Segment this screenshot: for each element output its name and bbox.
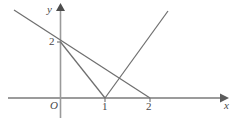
x-tick-label-1: 1	[102, 101, 108, 112]
figure-canvas	[0, 0, 238, 120]
origin-label: O	[50, 100, 58, 111]
y-axis-label: y	[47, 4, 52, 15]
v-left-branch-line	[61, 42, 106, 98]
coordinate-plane-figure: y x O 2 1 2	[0, 0, 238, 120]
y-axis-arrow-icon	[56, 3, 65, 11]
v-right-branch-line	[105, 11, 168, 98]
x-tick-label-2: 2	[146, 101, 152, 112]
y-tick-label-2: 2	[49, 36, 55, 47]
descending-line	[14, 10, 150, 98]
x-axis-label: x	[224, 100, 229, 111]
